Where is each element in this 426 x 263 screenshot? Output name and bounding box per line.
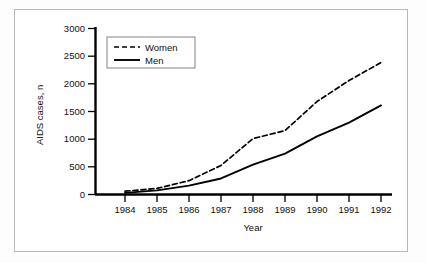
series-line-men bbox=[125, 105, 381, 192]
x-tick-label-1988: 1988 bbox=[242, 204, 263, 215]
y-tick-label-2000: 2000 bbox=[64, 78, 85, 89]
x-tick-label-1986: 1986 bbox=[178, 204, 199, 215]
x-tick-label-1992: 1992 bbox=[370, 204, 391, 215]
x-axis-ticks bbox=[125, 195, 381, 202]
chart-series bbox=[125, 63, 381, 193]
y-axis-tick-labels: 0 500 1000 1500 2000 2500 3000 bbox=[64, 23, 85, 200]
x-axis-tick-labels: 1984 1985 1986 1987 1988 1989 1990 1991 … bbox=[114, 204, 391, 215]
y-tick-label-2500: 2500 bbox=[64, 50, 85, 61]
legend-label-men: Men bbox=[145, 55, 163, 66]
y-tick-label-3000: 3000 bbox=[64, 23, 85, 34]
legend-label-women: Women bbox=[145, 42, 178, 53]
y-axis-title: AIDS cases, n bbox=[34, 85, 45, 145]
y-axis-ticks bbox=[88, 29, 95, 195]
x-tick-label-1987: 1987 bbox=[210, 204, 231, 215]
y-tick-label-0: 0 bbox=[80, 189, 85, 200]
x-axis-title: Year bbox=[243, 222, 262, 233]
y-tick-label-1000: 1000 bbox=[64, 133, 85, 144]
y-tick-label-500: 500 bbox=[69, 161, 85, 172]
x-tick-label-1985: 1985 bbox=[146, 204, 167, 215]
x-tick-label-1990: 1990 bbox=[306, 204, 327, 215]
chart-legend: Women Men bbox=[107, 37, 195, 68]
x-tick-label-1984: 1984 bbox=[114, 204, 135, 215]
x-tick-label-1991: 1991 bbox=[338, 204, 359, 215]
line-chart: 0 500 1000 1500 2000 2500 3000 AIDS case… bbox=[0, 0, 426, 263]
figure-page: 0 500 1000 1500 2000 2500 3000 AIDS case… bbox=[0, 0, 426, 263]
x-tick-label-1989: 1989 bbox=[274, 204, 295, 215]
y-tick-label-1500: 1500 bbox=[64, 106, 85, 117]
series-line-women bbox=[125, 63, 381, 192]
